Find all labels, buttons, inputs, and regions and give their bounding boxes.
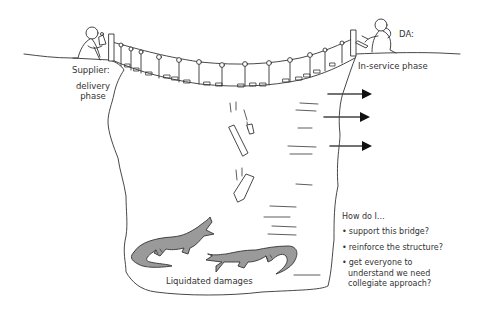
arrow-head xyxy=(362,89,372,99)
crocodile-icon xyxy=(131,217,297,274)
question-item: reinforce the structure? xyxy=(342,243,443,253)
questions-heading: How do I… xyxy=(342,212,443,222)
question-item: support this bridge? xyxy=(342,227,443,237)
left-bridge-post xyxy=(109,34,114,61)
supplier-phase-label: delivery phase xyxy=(72,82,114,102)
left-person-icon xyxy=(73,27,106,60)
da-label: DA: xyxy=(399,30,414,40)
bridge-diagram: Supplier: delivery phase DA: In-service … xyxy=(0,0,479,310)
questions-list: How do I… support this bridge? reinforce… xyxy=(342,212,443,289)
left-ground-line xyxy=(24,54,110,60)
right-person-icon xyxy=(356,19,396,53)
bridge-top-rope xyxy=(112,38,355,64)
liquidated-damages-label: Liquidated damages xyxy=(166,277,253,287)
falling-planks xyxy=(229,102,254,202)
right-ground-line xyxy=(355,53,460,54)
arrow-right-icons xyxy=(324,94,362,146)
question-item: get everyone to understand we need colle… xyxy=(342,258,443,289)
arrow-head xyxy=(362,141,372,151)
right-bridge-post xyxy=(351,30,356,56)
arrow-head xyxy=(360,112,370,122)
supplier-phase-line-2: phase xyxy=(72,92,114,102)
in-service-phase-label: In-service phase xyxy=(358,62,428,72)
supplier-label: Supplier: xyxy=(72,66,110,76)
